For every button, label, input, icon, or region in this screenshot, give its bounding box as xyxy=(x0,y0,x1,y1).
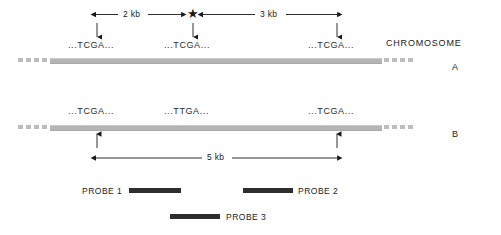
mutation-star-icon: ★ xyxy=(187,7,199,20)
chrom-b-site-2-mutated-sequence: ...TTGA... xyxy=(164,106,209,116)
chromosome-b-dash-right xyxy=(392,125,397,129)
chrom-a-site-2-sequence: ...TCGA... xyxy=(164,40,210,50)
distance-label-3kb: 3 kb xyxy=(258,9,279,19)
chromosome-b-dash-right xyxy=(400,125,405,129)
distance-label-5kb: 5 kb xyxy=(205,152,226,162)
chromosome-b-dash-left xyxy=(18,125,23,129)
chromosome-a-dash-left xyxy=(42,58,47,62)
chromosome-a-label: A xyxy=(452,62,459,72)
chromosome-a-dash-left xyxy=(34,58,39,62)
probe-3-label: PROBE 3 xyxy=(226,212,266,222)
probe-1-bar xyxy=(129,188,181,193)
distance-label-2kb: 2 kb xyxy=(121,9,142,19)
probe-1-label: PROBE 1 xyxy=(82,186,122,196)
chromosome-a-dash-right xyxy=(384,58,389,62)
chromosome-b-dash-right xyxy=(384,125,389,129)
annotation-arrows xyxy=(0,0,501,235)
chromosome-a-dash-right xyxy=(408,58,413,62)
probe-3-bar xyxy=(170,214,220,219)
chrom-b-site-3-sequence: ...TCGA... xyxy=(308,106,354,116)
chrom-a-site-3-sequence: ...TCGA... xyxy=(308,40,354,50)
probe-2-label: PROBE 2 xyxy=(298,186,338,196)
chromosome-a-dash-left xyxy=(26,58,31,62)
chromosome-b-dash-left xyxy=(34,125,39,129)
chrom-a-site-1-sequence: ...TCGA... xyxy=(68,40,114,50)
chromosome-b-bar xyxy=(50,125,382,131)
chromosome-a-dash-left xyxy=(18,58,23,62)
chromosome-b-dash-right xyxy=(408,125,413,129)
chromosome-b-dash-left xyxy=(26,125,31,129)
probe-2-bar xyxy=(243,188,293,193)
chromosome-b-dash-left xyxy=(42,125,47,129)
rflp-diagram: 2 kb ★ 3 kb ...TCGA... ...TCGA... ...TCG… xyxy=(0,0,501,235)
chrom-b-site-1-sequence: ...TCGA... xyxy=(68,106,114,116)
chromosome-b-label: B xyxy=(452,129,459,139)
chromosome-a-bar xyxy=(50,58,382,64)
chromosome-heading: CHROMOSOME xyxy=(386,38,462,48)
chromosome-a-dash-right xyxy=(400,58,405,62)
chromosome-a-dash-right xyxy=(392,58,397,62)
